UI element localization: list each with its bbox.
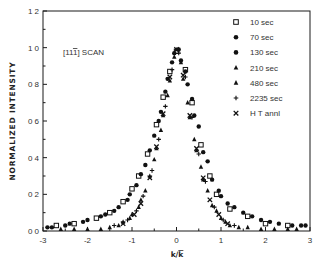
marker-filled-circle <box>219 194 223 198</box>
x-tick-label: 0 <box>174 236 179 245</box>
x-axis-title: k/k <box>171 250 185 259</box>
y-tick-label: 0 2 <box>28 190 40 199</box>
marker-open-square <box>145 152 149 156</box>
marker-filled-circle <box>170 60 174 64</box>
y-tick-label: 0 4 <box>28 154 40 163</box>
marker-open-square <box>246 214 250 218</box>
marker-filled-circle <box>290 223 294 227</box>
marker-filled-circle <box>99 214 103 218</box>
x-tick-label: -3 <box>39 236 47 245</box>
y-axis-title: NORMALIZED INTENSITY <box>8 62 17 181</box>
marker-filled-circle <box>210 177 214 181</box>
x-tick-label: 3 <box>308 236 313 245</box>
marker-filled-circle <box>241 210 245 214</box>
marker-filled-circle <box>185 82 189 86</box>
marker-filled-circle <box>190 97 194 101</box>
plot-frame <box>43 11 310 231</box>
marker-filled-circle <box>259 218 263 222</box>
marker-filled-circle <box>45 225 49 229</box>
marker-filled-circle <box>234 50 239 55</box>
marker-filled-circle <box>139 172 143 176</box>
marker-open-square <box>263 221 267 225</box>
y-tick-label: 1 2 <box>28 7 40 16</box>
marker-filled-circle <box>143 163 147 167</box>
marker-filled-circle <box>125 198 129 202</box>
x-tick-label: 2 <box>263 236 268 245</box>
x-tick-label: 1 <box>219 236 224 245</box>
y-tick-label: 0 0 <box>28 227 40 236</box>
marker-filled-circle <box>277 221 281 225</box>
marker-open-square <box>199 143 203 147</box>
x-axis-title-overbar: k <box>178 250 184 259</box>
marker-filled-circle <box>128 192 132 196</box>
marker-filled-circle <box>163 89 167 93</box>
x-tick-label: -1 <box>128 236 136 245</box>
marker-filled-circle <box>303 223 307 227</box>
marker-filled-circle <box>134 183 138 187</box>
legend-label: 210 sec <box>250 64 278 73</box>
marker-filled-circle <box>85 218 89 222</box>
marker-open-square <box>234 20 239 25</box>
y-tick-label: 1 0 <box>28 44 40 53</box>
scan-annotation: [111] SCAN <box>63 48 104 57</box>
marker-filled-circle <box>148 148 152 152</box>
y-tick-label: 0 6 <box>28 117 40 126</box>
marker-filled-circle <box>112 209 116 213</box>
marker-filled-circle <box>103 212 107 216</box>
marker-filled-circle <box>250 214 254 218</box>
marker-filled-circle <box>299 223 303 227</box>
legend-label: 480 sec <box>250 79 278 88</box>
legend-label: 10 sec <box>250 18 274 27</box>
marker-open-square <box>228 207 232 211</box>
marker-filled-circle <box>201 150 205 154</box>
marker-open-square <box>208 174 212 178</box>
marker-filled-circle <box>225 201 229 205</box>
marker-filled-circle <box>232 205 236 209</box>
legend-label: 130 sec <box>250 48 278 57</box>
marker-open-square <box>94 216 98 220</box>
marker-open-square <box>121 199 125 203</box>
marker-filled-circle <box>116 205 120 209</box>
marker-filled-circle <box>217 188 221 192</box>
marker-filled-circle <box>81 220 85 224</box>
marker-open-square <box>161 95 165 99</box>
marker-filled-circle <box>157 119 161 123</box>
x-tick-label: -2 <box>84 236 92 245</box>
marker-filled-circle <box>50 225 54 229</box>
intensity-chart: 0 00 20 40 60 81 01 2 -3-2-10123 10 sec7… <box>0 0 317 264</box>
marker-open-square <box>130 187 134 191</box>
y-tick-label: 0 8 <box>28 80 40 89</box>
marker-open-square <box>154 122 158 126</box>
marker-open-square <box>108 210 112 214</box>
marker-filled-circle <box>63 223 67 227</box>
marker-open-square <box>214 192 218 196</box>
marker-filled-circle <box>234 35 239 40</box>
marker-filled-circle <box>268 220 272 224</box>
legend-label: 70 sec <box>250 33 274 42</box>
marker-open-square <box>54 223 58 227</box>
marker-open-square <box>72 221 76 225</box>
marker-filled-circle <box>205 159 209 163</box>
marker-filled-circle <box>197 124 201 128</box>
marker-filled-circle <box>152 133 156 137</box>
legend-label: 2235 sec <box>250 94 282 103</box>
legend-label: H T annl <box>250 109 280 118</box>
marker-filled-circle <box>68 221 72 225</box>
